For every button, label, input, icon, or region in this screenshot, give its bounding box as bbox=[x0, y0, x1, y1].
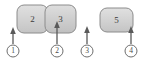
callout-1-arrowhead bbox=[10, 27, 16, 34]
callout-1-label: 1 bbox=[11, 46, 15, 55]
callout-2-label: 2 bbox=[55, 46, 59, 55]
block-5[interactable]: 5 bbox=[100, 8, 133, 32]
callout-3-label: 3 bbox=[85, 46, 89, 55]
block-2-label: 2 bbox=[30, 14, 35, 24]
callout-3[interactable]: 3 bbox=[81, 26, 93, 57]
callout-3-arrowhead bbox=[84, 26, 90, 33]
block-3[interactable]: 3 bbox=[45, 5, 76, 33]
callout-4-label: 4 bbox=[129, 46, 133, 55]
block-2[interactable]: 2 bbox=[17, 5, 48, 33]
block-3-label: 3 bbox=[58, 14, 63, 24]
callout-1[interactable]: 1 bbox=[7, 27, 19, 57]
block-5-label: 5 bbox=[114, 15, 119, 25]
block-group: 2 3 5 bbox=[17, 5, 133, 33]
diagram-canvas: 2 3 5 1 2 bbox=[0, 0, 146, 64]
